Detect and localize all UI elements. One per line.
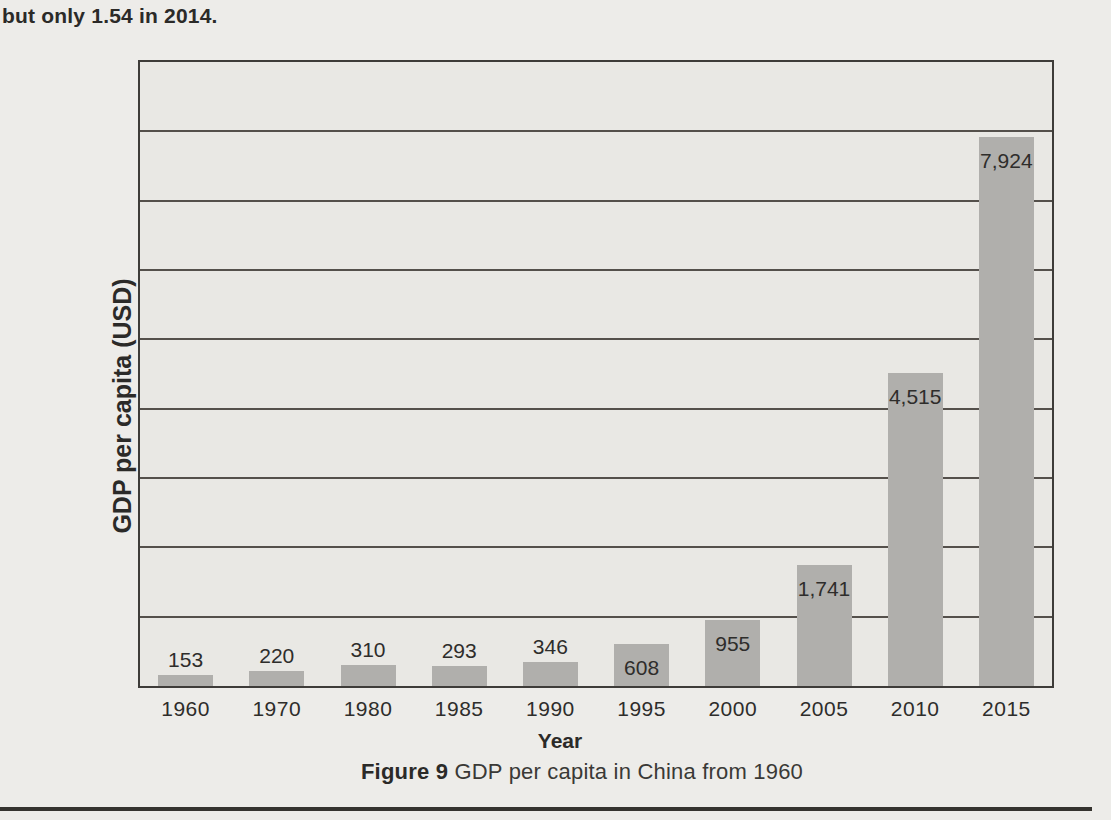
bar-chart: 1532203102933466089551,7414,5157,924 — [138, 60, 1054, 688]
bar-1985 — [432, 666, 487, 686]
bar-value-label: 346 — [505, 635, 595, 659]
figure-caption-text: GDP per capita in China from 1960 — [448, 759, 803, 784]
figure-number: Figure 9 — [361, 759, 448, 784]
gridline — [140, 269, 1052, 271]
x-tick-label: 2010 — [870, 697, 960, 721]
x-axis-title: Year — [538, 729, 582, 753]
bar-value-label: 310 — [323, 638, 413, 662]
figure-caption: Figure 9 GDP per capita in China from 19… — [361, 759, 803, 785]
bar-value-label: 7,924 — [961, 149, 1051, 173]
bar-value-label: 4,515 — [870, 385, 960, 409]
x-tick-label: 2015 — [961, 697, 1051, 721]
bar-value-label: 220 — [232, 644, 322, 668]
bar-value-label: 955 — [688, 632, 778, 656]
bar-1970 — [249, 671, 304, 686]
x-axis-tick-row: 1960197019801985199019952000200520102015 — [0, 697, 1111, 723]
y-axis-title: GDP per capita (USD) — [107, 206, 137, 606]
x-tick-label: 1990 — [505, 697, 595, 721]
x-tick-label: 2000 — [688, 697, 778, 721]
x-tick-label: 1995 — [597, 697, 687, 721]
bar-value-label: 1,741 — [779, 577, 869, 601]
bar-value-label: 608 — [597, 656, 687, 680]
gridline — [140, 200, 1052, 202]
bar-1960 — [158, 675, 213, 686]
bar-2010 — [888, 373, 943, 686]
plot-area: 1532203102933466089551,7414,5157,924 — [140, 62, 1052, 686]
bar-value-label: 293 — [414, 639, 504, 663]
bar-value-label: 153 — [141, 648, 231, 672]
x-tick-label: 1960 — [141, 697, 231, 721]
x-tick-label: 1980 — [323, 697, 413, 721]
page-divider-line — [0, 807, 1092, 811]
x-tick-label: 2005 — [779, 697, 869, 721]
x-tick-label: 1970 — [232, 697, 322, 721]
bar-1980 — [341, 665, 396, 686]
bar-2015 — [979, 137, 1034, 686]
gridline — [140, 130, 1052, 132]
body-text-fragment: but only 1.54 in 2014. — [2, 4, 218, 28]
gridline — [140, 338, 1052, 340]
x-tick-label: 1985 — [414, 697, 504, 721]
bar-1990 — [523, 662, 578, 686]
